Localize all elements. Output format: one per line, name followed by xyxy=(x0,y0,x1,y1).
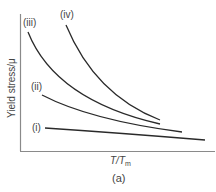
curve-iv-label: (iv) xyxy=(60,9,74,20)
y-axis-label: Yield stress/μ xyxy=(6,58,17,118)
curve-iv xyxy=(66,25,160,120)
curve-ii xyxy=(42,95,182,132)
x-axis-label-sub: m xyxy=(125,160,131,167)
curve-iii-label: (iii) xyxy=(23,17,36,28)
yield-stress-chart: (i) (ii) (iii) (iv) Yield stress/μ T/Tm … xyxy=(0,0,216,192)
curve-i xyxy=(45,128,205,140)
figure-caption: (a) xyxy=(112,172,125,184)
curve-i-label: (i) xyxy=(32,122,41,133)
curve-ii-label: (ii) xyxy=(31,81,42,92)
x-axis-label-main: T/T xyxy=(110,155,126,166)
x-axis-label: T/Tm xyxy=(110,155,131,167)
